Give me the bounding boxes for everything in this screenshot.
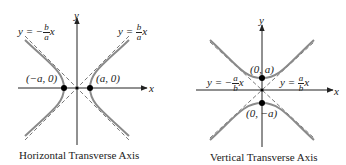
right-asymptote-positive-label: y = abx (280, 74, 309, 93)
right-vertex-top-label: (0, a) (250, 64, 274, 75)
left-x-axis-label: x (149, 83, 154, 94)
left-caption: Horizontal Transverse Axis (19, 149, 139, 161)
center-point (75, 86, 78, 89)
left-asymptote-negative-label: y = −bax (18, 23, 55, 42)
vertex-top-point (259, 75, 265, 81)
left-asymptote-positive-label: y = bax (118, 23, 147, 42)
left-y-axis-label: y (74, 10, 79, 21)
right-y-axis-label: y (259, 15, 264, 26)
right-caption: Vertical Transverse Axis (210, 151, 318, 163)
right-asymptote-negative-label: y = −abx (207, 74, 244, 93)
right-x-axis-label: x (334, 86, 339, 97)
vertex-right-point (87, 85, 93, 91)
center-point (260, 88, 263, 91)
left-vertex-left-label: (−a, 0) (26, 73, 57, 84)
vertex-left-point (61, 85, 67, 91)
vertex-bottom-point (259, 100, 265, 106)
left-vertex-right-label: (a, 0) (96, 73, 120, 84)
right-vertex-bottom-label: (0, −a) (246, 108, 277, 119)
